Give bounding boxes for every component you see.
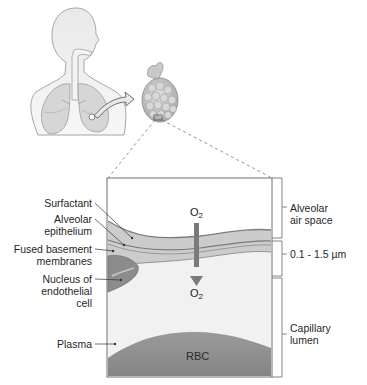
alveolar-sac-illustration (142, 62, 178, 122)
label-line: Capillary (290, 322, 331, 334)
rbc-label: RBC (186, 350, 209, 362)
label-line: air space (290, 214, 333, 226)
oxygen-label-capillary: O2 (190, 287, 203, 301)
label-line: lumen (290, 334, 331, 346)
label-line: Plasma (10, 338, 92, 350)
label-line: 0.1 - 1.5 µm (290, 248, 346, 260)
label-line: membranes (0, 255, 92, 267)
o2-subscript: 2 (199, 292, 203, 301)
label-fused-basement-membranes: Fused basement membranes (0, 243, 92, 267)
label-line: Alveolar (10, 213, 92, 225)
label-line: Alveolar (290, 202, 333, 214)
o2-subscript: 2 (199, 211, 203, 220)
label-line: cell (10, 297, 92, 309)
label-line: Fused basement (0, 243, 92, 255)
label-alveolar-air-space: Alveolar air space (290, 202, 333, 226)
scale-brackets (272, 178, 287, 377)
label-nucleus-endothelial-cell: Nucleus of endothelial cell (10, 273, 92, 309)
label-line: epithelium (10, 225, 92, 237)
label-alveolar-epithelium: Alveolar epithelium (10, 213, 92, 237)
label-plasma: Plasma (10, 338, 92, 350)
label-capillary-lumen: Capillary lumen (290, 322, 331, 346)
label-line: Surfactant (10, 197, 92, 209)
label-surfactant: Surfactant (10, 197, 92, 209)
human-torso-illustration (31, 8, 126, 135)
label-line: Nucleus of (10, 273, 92, 285)
label-membrane-thickness: 0.1 - 1.5 µm (290, 248, 346, 260)
oxygen-label-alveolar: O2 (190, 206, 203, 220)
o2-base: O (190, 206, 199, 218)
label-line: endothelial (10, 285, 92, 297)
o2-base: O (190, 287, 199, 299)
